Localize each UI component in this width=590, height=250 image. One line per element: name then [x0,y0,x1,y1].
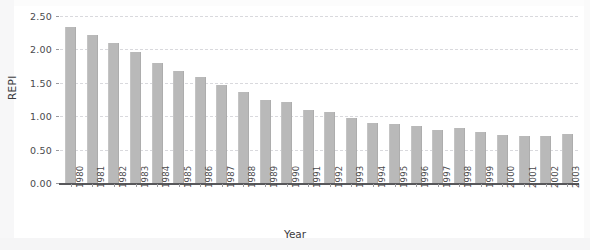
x-tick-mark [136,184,137,187]
x-tick-mark [71,184,72,187]
x-tick-mark [459,184,460,187]
x-tick-label: 1998 [463,166,473,188]
x-tick-mark [438,184,439,187]
x-tick-mark [265,184,266,187]
x-tick-label: 1983 [140,166,150,188]
x-tick-label: 1991 [312,166,322,188]
x-tick-mark [524,184,525,187]
x-tick-label: 1984 [161,166,171,188]
x-tick-mark [179,184,180,187]
x-tick-label: 2000 [506,166,516,188]
x-tick-label: 1981 [96,166,106,188]
x-tick-label: 2002 [550,166,560,188]
x-tick-mark [481,184,482,187]
x-tick-mark [114,184,115,187]
x-tick-label: 1989 [269,166,279,188]
bar [130,52,141,183]
y-tick-mark [56,150,59,151]
x-tick-label: 1980 [75,166,85,188]
y-tick-label: 0.50 [8,144,52,155]
bar-chart-figure: 0.000.501.001.502.002.50 198019811982198… [0,0,590,250]
page-top-margin [0,0,590,6]
x-tick-mark [200,184,201,187]
x-tick-label: 1993 [355,166,365,188]
x-tick-mark [243,184,244,187]
y-tick-mark [56,16,59,17]
x-tick-label: 1982 [118,166,128,188]
gridline [60,16,578,17]
y-axis-label: REPI [6,75,18,100]
y-tick-label: 0.00 [8,178,52,189]
page-left-margin [0,0,14,250]
x-tick-label: 1996 [420,166,430,188]
x-tick-mark [157,184,158,187]
x-axis-label: Year [0,228,590,240]
x-tick-mark [330,184,331,187]
x-tick-mark [308,184,309,187]
y-tick-label: 2.00 [8,44,52,55]
y-tick-label: 2.50 [8,11,52,22]
x-tick-mark [287,184,288,187]
x-tick-label: 1988 [247,166,257,188]
x-tick-label: 1985 [183,166,193,188]
x-tick-label: 1999 [485,166,495,188]
x-tick-mark [351,184,352,187]
y-tick-mark [56,49,59,50]
page-right-margin [584,0,590,250]
x-tick-label: 1986 [204,166,214,188]
x-tick-mark [416,184,417,187]
x-tick-label: 1987 [226,166,236,188]
y-tick-mark [56,116,59,117]
x-tick-mark [546,184,547,187]
x-tick-label: 2001 [528,166,538,188]
x-tick-mark [567,184,568,187]
x-tick-label: 2003 [571,166,581,188]
y-tick-mark [56,183,59,184]
y-tick-mark [56,83,59,84]
x-tick-mark [222,184,223,187]
x-tick-mark [373,184,374,187]
bar [87,35,98,183]
bar [108,43,119,183]
x-tick-label: 1990 [291,166,301,188]
x-tick-mark [502,184,503,187]
x-tick-label: 1997 [442,166,452,188]
x-tick-label: 1992 [334,166,344,188]
x-tick-label: 1995 [399,166,409,188]
y-tick-label: 1.00 [8,111,52,122]
gridline [60,49,578,50]
x-tick-mark [395,184,396,187]
x-tick-mark [92,184,93,187]
bar [65,27,76,183]
x-tick-label: 1994 [377,166,387,188]
